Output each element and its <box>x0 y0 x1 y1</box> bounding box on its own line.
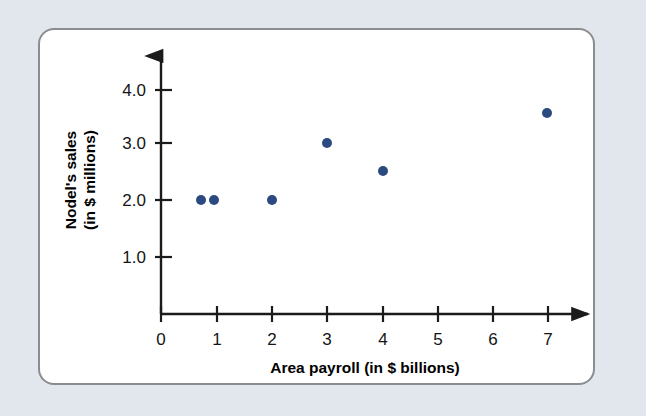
x-tick-label-5: 5 <box>433 330 442 349</box>
y-tick-label-4: 4.0 <box>122 81 146 100</box>
x-tick-label-3: 3 <box>322 330 331 349</box>
y-tick-label-2: 2.0 <box>122 191 146 210</box>
x-tick-label-6: 6 <box>488 330 497 349</box>
data-point <box>378 166 388 176</box>
x-tick-label-0: 0 <box>156 330 165 349</box>
data-point <box>322 138 332 148</box>
x-tick-label-4: 4 <box>378 330 387 349</box>
x-tick-label-7: 7 <box>543 330 552 349</box>
y-tick-label-1: 1.0 <box>122 248 146 267</box>
data-point <box>267 195 277 205</box>
data-point <box>542 108 552 118</box>
y-axis-ticks <box>155 90 172 257</box>
data-points-group <box>196 108 552 205</box>
y-axis-title-line2: (in $ millions) <box>81 130 98 230</box>
y-tick-label-3: 3.0 <box>122 134 146 153</box>
x-axis-title: Area payroll (in $ billions) <box>270 359 459 376</box>
y-axis-title-line1: Nodel's sales <box>62 131 79 229</box>
scatter-plot: 1.0 2.0 3.0 4.0 0 1 2 3 4 5 6 7 Area pay… <box>0 0 646 416</box>
data-point <box>196 195 206 205</box>
data-point <box>209 195 219 205</box>
x-tick-label-1: 1 <box>212 330 221 349</box>
x-tick-label-2: 2 <box>267 330 276 349</box>
